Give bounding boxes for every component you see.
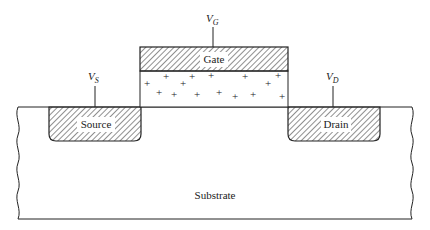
mosfet-diagram: Source Drain Gate VG VS VD +++++++++++++…	[0, 0, 430, 230]
source-terminal-label: VS	[88, 70, 99, 85]
positive-charge: +	[194, 88, 200, 100]
drain-terminal-label: VD	[326, 70, 339, 85]
positive-charge: +	[275, 69, 281, 81]
positive-charge: +	[279, 90, 285, 102]
diagram-canvas: Source Drain Gate VG VS VD +++++++++++++…	[0, 0, 430, 230]
positive-charge: +	[232, 90, 238, 102]
positive-charge: +	[156, 86, 162, 98]
positive-charge: +	[265, 77, 271, 89]
positive-charge: +	[208, 69, 214, 81]
substrate-label: Substrate	[195, 189, 236, 201]
positive-charge: +	[242, 70, 248, 82]
positive-charge: +	[189, 70, 195, 82]
drain-label: Drain	[323, 118, 349, 130]
positive-charge: +	[163, 70, 169, 82]
positive-charge: +	[144, 77, 150, 89]
positive-charge: +	[250, 88, 256, 100]
source-label: Source	[81, 118, 112, 130]
gate-label: Gate	[204, 53, 225, 65]
positive-charge: +	[216, 86, 222, 98]
positive-charge: +	[171, 88, 177, 100]
gate-terminal-label: VG	[206, 12, 219, 27]
positive-charge: +	[180, 77, 186, 89]
